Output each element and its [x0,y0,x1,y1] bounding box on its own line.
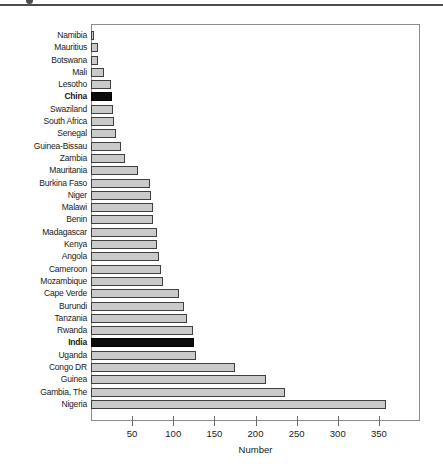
bar [91,326,193,335]
bar-row: Swaziland [0,105,419,114]
bar [91,228,157,237]
x-axis-tick-label: 250 [289,428,305,439]
category-label: Botswana [0,56,91,65]
bar-track [91,252,419,261]
category-label: Benin [0,215,91,224]
category-label: South Africa [0,117,91,126]
bar-track [91,375,419,384]
bar [91,351,196,360]
bar [91,203,153,212]
bar-row: Botswana [0,56,419,65]
x-axis-tick-label: 50 [127,428,138,439]
bar [91,215,153,224]
bar-track [91,166,419,175]
bar-track [91,240,419,249]
category-label: Cape Verde [0,289,91,298]
bar [91,265,161,274]
bar-track [91,314,419,323]
category-label: Congo DR [0,363,91,372]
bar-track [91,80,419,89]
category-label: Guinea [0,375,91,384]
bar-row: Benin [0,215,419,224]
category-label: Tanzania [0,314,91,323]
bar-row: Nigeria [0,400,419,409]
bar-row: Lesotho [0,80,419,89]
category-label: Mali [0,68,91,77]
bar-row: Uganda [0,351,419,360]
bar-track [91,265,419,274]
bar-row: Angola [0,252,419,261]
bar-track [91,117,419,126]
bar-rows: NamibiaMauritiusBotswanaMaliLesothoChina… [0,25,419,420]
bar [91,105,113,114]
bar-row: Congo DR [0,363,419,372]
category-label: Namibia [0,31,91,40]
bar [91,31,94,40]
bar-track [91,326,419,335]
bar-row: Mauritius [0,43,419,52]
category-label: Burkina Faso [0,179,91,188]
bar-row: Cape Verde [0,289,419,298]
bar [91,68,104,77]
bar-track [91,179,419,188]
category-label: Swaziland [0,105,91,114]
bar-track [91,142,419,151]
bar-track [91,363,419,372]
bar-track [91,228,419,237]
bar-row: India [0,338,419,347]
bar-track [91,215,419,224]
category-label: Cameroon [0,265,91,274]
bar [91,142,121,151]
highlighted-bar [91,92,112,101]
bar [91,289,179,298]
x-axis-tick-label: 100 [165,428,181,439]
bar [91,191,151,200]
bar [91,56,98,65]
bar [91,302,184,311]
bar-row: Senegal [0,129,419,138]
bar-track [91,338,419,347]
bar-row: Tanzania [0,314,419,323]
bar-row: Niger [0,191,419,200]
bar-row: Burkina Faso [0,179,419,188]
bar [91,375,266,384]
bar-track [91,154,419,163]
bar [91,314,187,323]
bar-track [91,302,419,311]
bar-track [91,92,419,101]
bar-row: Kenya [0,240,419,249]
bar [91,154,125,163]
category-label: Mauritius [0,43,91,52]
bar-track [91,68,419,77]
bar-track [91,105,419,114]
bar-track [91,56,419,65]
category-label: Guinea-Bissau [0,142,91,151]
bar [91,252,159,261]
bar-row: Guinea [0,375,419,384]
bar-row: Mali [0,68,419,77]
highlighted-bar [91,338,194,347]
x-axis-tick-label: 350 [371,428,387,439]
bar-row: Mauritania [0,166,419,175]
category-label: China [0,92,91,101]
bar [91,80,111,89]
x-axis-tick-label: 200 [248,428,264,439]
category-label: India [0,338,91,347]
bar-row: Malawi [0,203,419,212]
category-label: Angola [0,252,91,261]
bar-row: Guinea-Bissau [0,142,419,151]
cropped-caption-rule [0,4,443,6]
bar-row: Gambia, The [0,388,419,397]
bar [91,117,114,126]
bar-row: Namibia [0,31,419,40]
bar-track [91,351,419,360]
category-label: Burundi [0,302,91,311]
category-label: Zambia [0,154,91,163]
category-label: Mozambique [0,277,91,286]
category-label: Rwanda [0,326,91,335]
bar-track [91,388,419,397]
category-label: Nigeria [0,400,91,409]
bar-row: Burundi [0,302,419,311]
bar [91,166,138,175]
bar [91,400,386,409]
